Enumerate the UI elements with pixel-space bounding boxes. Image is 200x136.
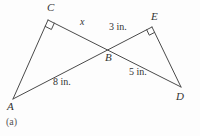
vertex-label-B: B xyxy=(105,52,112,63)
figure-caption: (a) xyxy=(6,117,17,127)
side-ED xyxy=(152,27,181,87)
vertex-label-A: A xyxy=(7,101,14,112)
vertex-label-E: E xyxy=(151,11,158,22)
triangle-diagram xyxy=(0,0,200,136)
segment-label-BD-5in: 5 in. xyxy=(129,67,147,77)
segment-label-CB-x: x xyxy=(80,17,84,27)
vertex-label-C: C xyxy=(47,2,54,13)
segment-label-BE-3in: 3 in. xyxy=(109,22,127,32)
side-AC xyxy=(13,20,48,99)
geometry-figure: C E B A D x 3 in. 8 in. 5 in. (a) xyxy=(0,0,200,136)
segment-label-AB-8in: 8 in. xyxy=(53,77,71,87)
vertex-label-D: D xyxy=(176,91,184,102)
